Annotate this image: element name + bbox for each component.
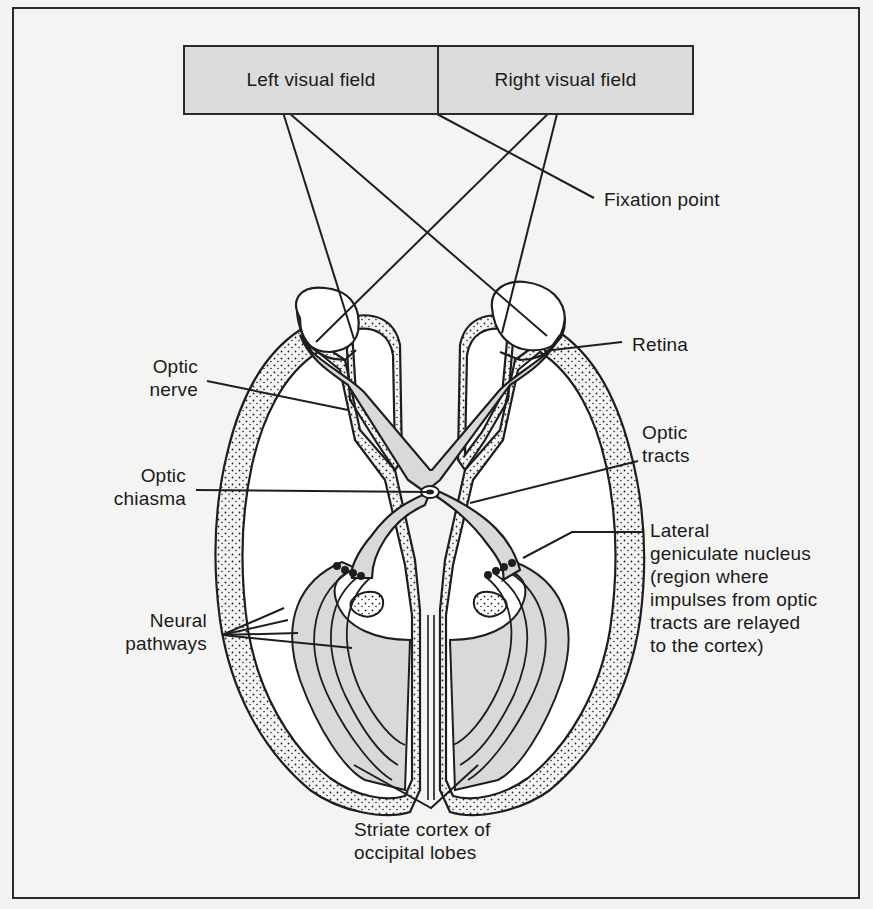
optic-nerve-label: Optic nerve	[140, 355, 198, 401]
left-visual-field-box: Left visual field	[183, 45, 439, 115]
neural-pathways-label: Neural pathways	[110, 609, 207, 655]
longitudinal-fissure	[428, 615, 434, 800]
lateral-geniculate-nucleus-label: Lateral geniculate nucleus (region where…	[650, 519, 817, 657]
optic-chiasma-label: Optic chiasma	[100, 464, 186, 510]
retina-label: Retina	[632, 333, 688, 356]
fixation-point-label: Fixation point	[604, 188, 720, 211]
brain-visual-pathway-diagram	[0, 0, 873, 909]
brain-outline	[215, 315, 644, 815]
striate-cortex-label: Striate cortex of occipital lobes	[354, 818, 490, 864]
optic-tracts-label: Optic tracts	[642, 421, 690, 467]
left-visual-field-label: Left visual field	[246, 69, 375, 91]
right-visual-field-box: Right visual field	[437, 45, 694, 115]
right-visual-field-label: Right visual field	[495, 69, 637, 91]
